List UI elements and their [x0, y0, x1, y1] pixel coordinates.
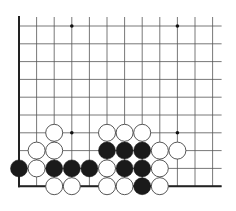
white-stone [99, 178, 116, 195]
star-point-icon [70, 131, 74, 135]
white-stone [46, 124, 63, 141]
star-point-icon [176, 131, 180, 135]
white-stone [99, 160, 116, 177]
black-stone [81, 160, 98, 177]
black-stone [134, 178, 151, 195]
black-stone [134, 142, 151, 159]
black-stone [134, 160, 151, 177]
white-stone [28, 142, 45, 159]
white-stone [63, 178, 80, 195]
white-stone [46, 142, 63, 159]
white-stone [151, 160, 168, 177]
white-stone [151, 142, 168, 159]
black-stone [99, 142, 116, 159]
star-point-icon [70, 24, 74, 28]
white-stone [116, 178, 133, 195]
black-stone [116, 142, 133, 159]
white-stone [46, 178, 63, 195]
star-point-icon [176, 24, 180, 28]
white-stone [169, 142, 186, 159]
white-stone [116, 124, 133, 141]
white-stone [28, 160, 45, 177]
white-stone [134, 124, 151, 141]
black-stone [63, 160, 80, 177]
white-stone [151, 178, 168, 195]
black-stone [11, 160, 28, 177]
go-board [0, 0, 236, 211]
black-stone [116, 160, 133, 177]
white-stone [99, 124, 116, 141]
black-stone [46, 160, 63, 177]
